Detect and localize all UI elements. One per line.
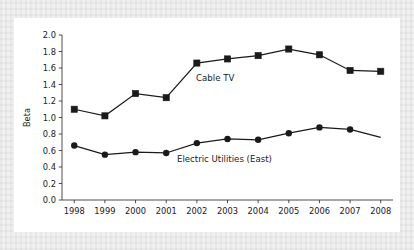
x-tick-label: 2004 xyxy=(248,206,269,216)
x-tick-label: 2002 xyxy=(186,206,207,216)
data-point-marker xyxy=(194,60,200,66)
data-point-marker xyxy=(316,124,322,130)
data-point-marker xyxy=(286,130,292,136)
data-point-marker xyxy=(102,151,108,157)
data-point-marker xyxy=(378,68,384,74)
x-tick-label: 1998 xyxy=(64,206,85,216)
x-tick-labels: 1998199920002001200220032004200520062007… xyxy=(64,206,392,216)
y-axis-title: Beta xyxy=(22,108,32,127)
x-tick-label: 2008 xyxy=(370,206,391,216)
data-point-marker xyxy=(316,52,322,58)
data-point-marker xyxy=(163,95,169,101)
data-point-marker xyxy=(224,56,230,62)
y-tick-label: 1.6 xyxy=(43,63,56,73)
x-tick-label: 1999 xyxy=(94,206,115,216)
data-point-marker xyxy=(102,113,108,119)
beta-line-chart: 0.00.20.40.60.81.01.21.41.61.82.0 Beta 1… xyxy=(14,18,400,232)
data-point-marker xyxy=(71,142,77,148)
data-point-marker xyxy=(224,136,230,142)
y-tick-label: 1.2 xyxy=(43,96,56,106)
series-label: Cable TV xyxy=(196,73,234,83)
series-2 xyxy=(71,124,381,158)
x-tick-label: 2007 xyxy=(340,206,361,216)
y-tick-label: 1.4 xyxy=(43,80,56,90)
x-axis-group: 1998199920002001200220032004200520062007… xyxy=(62,200,393,216)
series-label: Electric Utilities (East) xyxy=(177,154,272,164)
data-point-marker xyxy=(347,126,353,132)
y-tick-labels: 0.00.20.40.60.81.01.21.41.61.82.0 xyxy=(43,30,56,205)
x-tick-label: 2001 xyxy=(156,206,177,216)
y-tick-label: 0.0 xyxy=(43,195,56,205)
x-tick-marks xyxy=(74,200,380,203)
data-point-marker xyxy=(255,53,261,59)
chart-panel: 0.00.20.40.60.81.01.21.41.61.82.0 Beta 1… xyxy=(14,18,400,232)
data-point-marker xyxy=(163,150,169,156)
y-tick-label: 0.4 xyxy=(43,162,56,172)
data-point-marker xyxy=(286,46,292,52)
y-axis-group: 0.00.20.40.60.81.01.21.41.61.82.0 Beta xyxy=(22,30,62,205)
data-point-marker xyxy=(347,67,353,73)
data-point-marker xyxy=(71,106,77,112)
x-tick-label: 2000 xyxy=(125,206,146,216)
data-point-marker xyxy=(255,137,261,143)
series-label-layer: Cable TVElectric Utilities (East) xyxy=(177,73,272,164)
x-tick-label: 2005 xyxy=(278,206,299,216)
y-tick-label: 0.8 xyxy=(43,129,56,139)
data-point-marker xyxy=(132,149,138,155)
y-tick-label: 2.0 xyxy=(43,30,56,40)
figure-canvas: 0.00.20.40.60.81.01.21.41.61.82.0 Beta 1… xyxy=(0,0,414,250)
x-tick-label: 2003 xyxy=(217,206,238,216)
data-point-marker xyxy=(194,140,200,146)
y-tick-label: 1.8 xyxy=(43,47,56,57)
y-tick-label: 0.2 xyxy=(43,179,56,189)
data-point-marker xyxy=(132,90,138,96)
y-tick-label: 1.0 xyxy=(43,113,56,123)
y-tick-label: 0.6 xyxy=(43,146,56,156)
series-layer xyxy=(71,46,384,158)
x-tick-label: 2006 xyxy=(309,206,330,216)
y-tick-marks xyxy=(59,35,62,200)
